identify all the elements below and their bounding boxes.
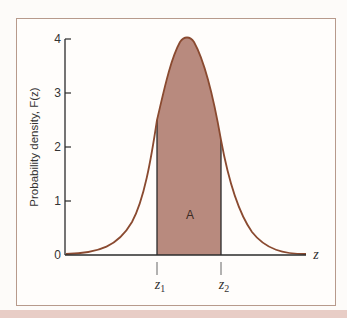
y-tick-label-3: 3	[54, 86, 61, 100]
area-label: A	[186, 208, 194, 222]
x-axis-label: z	[313, 247, 318, 263]
y-tick-label-4: 4	[54, 32, 61, 46]
y-tick-label-2: 2	[54, 140, 61, 154]
y-axis-label: Probability density, F(z)	[28, 87, 40, 206]
y-tick-label-1: 1	[54, 194, 61, 208]
shaded-area-a	[157, 38, 221, 256]
z1-label: z1	[155, 277, 165, 294]
chart-plot	[0, 0, 347, 318]
y-tick-label-0: 0	[54, 248, 61, 262]
z2-label: z2	[219, 277, 229, 294]
